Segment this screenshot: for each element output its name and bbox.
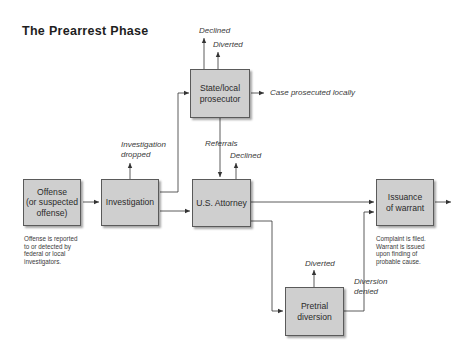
note-offense: Offense is reported to or detected by fe… bbox=[24, 235, 77, 265]
node-label: Investigation bbox=[106, 197, 154, 208]
node-label: U.S. Attorney bbox=[196, 198, 247, 209]
node-investigation: Investigation bbox=[101, 179, 159, 226]
node-label: State/local prosecutor bbox=[200, 83, 241, 104]
node-label: Issuance of warrant bbox=[386, 192, 424, 213]
label-investigation-dropped: Investigation dropped bbox=[121, 140, 166, 160]
label-state-diverted: Diverted bbox=[213, 40, 243, 50]
node-pretrial-diversion: Pretrial diversion bbox=[285, 287, 344, 336]
node-us-attorney: U.S. Attorney bbox=[192, 179, 251, 227]
label-referrals: Referrals bbox=[205, 139, 237, 149]
node-label: Offense (or suspected offense) bbox=[26, 187, 78, 219]
label-state-declined: Declined bbox=[199, 26, 230, 36]
node-offense: Offense (or suspected offense) bbox=[23, 179, 81, 226]
label-diversion-denied: Diversion denied bbox=[354, 277, 387, 297]
note-warrant: Complaint is filed. Warrant is issued up… bbox=[376, 235, 426, 265]
node-label: Pretrial diversion bbox=[297, 301, 331, 322]
node-issuance-of-warrant: Issuance of warrant bbox=[376, 179, 434, 226]
label-usa-declined: Declined bbox=[230, 151, 261, 161]
node-state-local-prosecutor: State/local prosecutor bbox=[190, 69, 250, 118]
label-pretrial-diverted: Diverted bbox=[305, 259, 335, 269]
label-case-prosecuted-locally: Case prosecuted locally bbox=[270, 88, 355, 98]
